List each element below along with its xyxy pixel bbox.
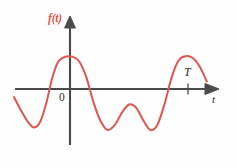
function-curve: [14, 56, 207, 130]
origin-label: 0: [59, 92, 65, 104]
time-axis-label: t: [212, 94, 215, 105]
figure-canvas: [0, 0, 236, 167]
vertical-axis-arrowhead: [65, 16, 76, 28]
function-axis-label: f(t): [48, 13, 62, 25]
period-label: T: [184, 66, 191, 78]
periodic-function-figure: f(t) 0 T t: [0, 0, 236, 167]
